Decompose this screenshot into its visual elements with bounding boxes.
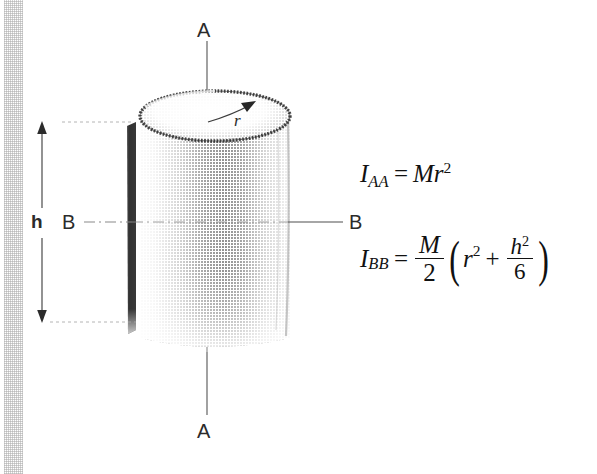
formula-bb-paren-close: ) [538, 237, 549, 280]
cylinder-body [138, 112, 294, 362]
formula-bb-coefficient-fraction: M 2 [415, 232, 444, 285]
cylinder-left-dark-edge [124, 118, 140, 340]
formula-bb-plus: + [480, 246, 504, 271]
formula-i-aa: IAA=Mr2 [360, 160, 451, 190]
formula-aa-subscript: AA [368, 172, 389, 191]
formula-bb-term2-numerator-group: h2 [507, 234, 534, 260]
axis-label-b-left: B [62, 212, 75, 232]
height-arrowhead-top [37, 121, 47, 134]
formula-bb-term2-numerator: h [511, 233, 523, 258]
formula-aa-equals: = [389, 160, 413, 187]
axis-label-b-right: B [349, 212, 362, 232]
formula-bb-term2-denominator: 6 [507, 259, 534, 283]
formula-aa-radius: r [434, 160, 444, 187]
formula-bb-term2-numerator-exponent: 2 [522, 233, 529, 249]
formula-i-bb: IBB= M 2 (r2+ h2 6 ) [360, 232, 552, 285]
height-arrowhead-bottom [37, 310, 47, 323]
formula-bb-term1: r [463, 246, 473, 271]
formula-bb-term2-fraction: h2 6 [507, 234, 534, 284]
height-label: h [31, 212, 43, 231]
formula-aa-radius-exponent: 2 [444, 159, 452, 176]
cylinder-moment-of-inertia-figure: A A B B h r IAA=Mr2 IBB= M 2 (r2+ h2 6 ) [0, 0, 597, 474]
radius-label: r [234, 112, 241, 129]
axis-label-a-top: A [197, 20, 210, 40]
formula-aa-mass: M [413, 160, 434, 187]
formula-bb-paren-open: ( [449, 237, 460, 280]
formula-bb-coefficient-denominator: 2 [415, 259, 444, 285]
axis-label-a-bottom: A [197, 421, 210, 441]
formula-bb-subscript: BB [368, 254, 389, 273]
formula-bb-term1-exponent: 2 [473, 242, 481, 259]
formula-bb-equals: = [389, 246, 413, 271]
formula-bb-coefficient-numerator: M [415, 232, 444, 259]
